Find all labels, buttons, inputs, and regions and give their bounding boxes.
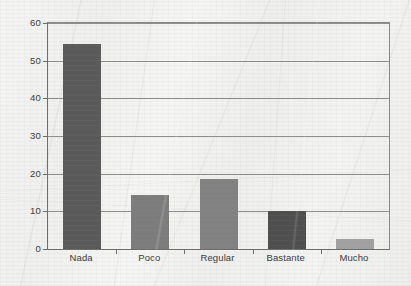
plot-area <box>47 22 390 250</box>
y-tick-mark-10 <box>43 211 48 212</box>
y-tick-label-0: 0 <box>36 243 41 254</box>
y-tick-mark-60 <box>43 23 48 24</box>
gridline-60 <box>48 23 389 24</box>
y-tick-mark-0 <box>43 249 48 250</box>
y-tick-mark-30 <box>43 136 48 137</box>
x-label-mucho: Mucho <box>339 252 368 263</box>
bar-regular <box>200 179 238 249</box>
x-tick-mark-4 <box>321 249 322 254</box>
x-tick-mark-2 <box>184 249 185 254</box>
x-tick-mark-1 <box>116 249 117 254</box>
x-tick-mark-3 <box>253 249 254 254</box>
bar-poco <box>131 195 169 249</box>
y-tick-label-20: 20 <box>30 167 41 178</box>
x-label-poco: Poco <box>138 252 160 263</box>
x-label-regular: Regular <box>201 252 235 263</box>
y-tick-label-60: 60 <box>30 17 41 28</box>
y-tick-label-30: 30 <box>30 130 41 141</box>
y-axis-tick-labels: 0102030405060 <box>20 22 41 248</box>
y-tick-mark-40 <box>43 98 48 99</box>
y-tick-mark-20 <box>43 174 48 175</box>
y-tick-label-50: 50 <box>30 54 41 65</box>
x-label-bastante: Bastante <box>267 252 305 263</box>
bar-nada <box>63 44 101 249</box>
y-tick-label-40: 40 <box>30 92 41 103</box>
bar-bastante <box>268 211 306 249</box>
y-tick-mark-50 <box>43 61 48 62</box>
bar-chart-figure: 0102030405060 NadaPocoRegularBastanteMuc… <box>0 0 411 286</box>
bar-mucho <box>336 239 374 249</box>
x-label-nada: Nada <box>70 252 93 263</box>
y-tick-label-10: 10 <box>30 205 41 216</box>
